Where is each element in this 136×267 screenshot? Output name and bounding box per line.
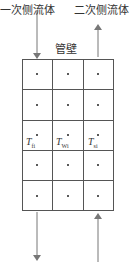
- secondary-fluid-label: 二次侧流体: [74, 1, 129, 17]
- temp-label-secondary: Tsi: [88, 136, 98, 149]
- tube-wall-label: 管壁: [55, 40, 77, 56]
- temp-label-wall: TWi: [56, 136, 69, 149]
- temp-label-fluid: Tfi: [26, 136, 35, 149]
- node-dots: [36, 73, 99, 197]
- primary-fluid-label: 一次侧流体: [0, 1, 55, 17]
